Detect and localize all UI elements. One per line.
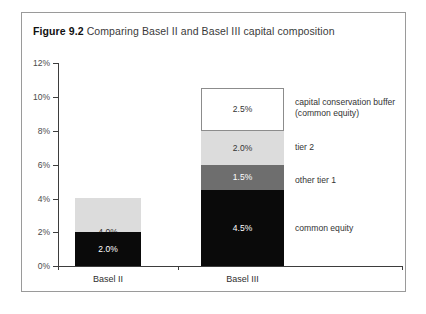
y-label-10: 10%: [24, 93, 50, 102]
annotation-other-tier-1: other tier 1: [295, 175, 336, 186]
y-label-0: 0%: [24, 262, 50, 271]
bar-basel-iii-segment-common-equity[interactable]: 4.5%: [201, 190, 284, 266]
y-tick-2: [53, 232, 58, 233]
y-tick-4: [53, 199, 58, 200]
annotation-common-equity: common equity: [295, 223, 353, 234]
bar-basel-iii-segment-other-tier-1[interactable]: 1.5%: [201, 165, 284, 190]
y-axis-line: [58, 63, 59, 267]
bar-basel-iii-segment-tier-2[interactable]: 2.0%: [201, 131, 284, 165]
bar-basel-iii-segment-capital-conservation-buffer[interactable]: 2.5%: [201, 88, 284, 131]
y-label-6: 6%: [24, 161, 50, 170]
segment-value: 2.5%: [233, 105, 252, 114]
figure-frame: Figure 9.2 Comparing Basel II and Basel …: [21, 12, 406, 292]
segment-value: 1.5%: [233, 173, 252, 182]
category-label-basel-iii: Basel III: [201, 275, 284, 284]
y-label-4: 4%: [24, 195, 50, 204]
annotation-capital-conservation-buffer-line1: capital conservation buffer: [295, 97, 395, 108]
y-tick-8: [53, 131, 58, 132]
chart-plot-area: 12% 10% 8% 6% 4% 2% 0% 4.0% 2.0% 2.0% 2.…: [22, 13, 407, 293]
x-axis-line: [58, 266, 403, 267]
segment-value: 2.0%: [98, 245, 117, 254]
annotation-capital-conservation-buffer-line2: (common equity): [295, 108, 359, 119]
segment-value: 4.5%: [233, 224, 252, 233]
x-tick-start: [58, 266, 59, 270]
x-tick-mid: [178, 266, 179, 270]
y-tick-12: [53, 63, 58, 64]
y-label-12: 12%: [24, 59, 50, 68]
y-label-2: 2%: [24, 228, 50, 237]
y-label-8: 8%: [24, 127, 50, 136]
segment-value: 2.0%: [233, 144, 252, 153]
annotation-tier-2: tier 2: [295, 142, 314, 153]
category-label-basel-ii: Basel II: [75, 275, 141, 284]
y-tick-6: [53, 165, 58, 166]
y-tick-10: [53, 97, 58, 98]
bar-basel-ii-segment-common-equity[interactable]: 2.0%: [75, 232, 141, 266]
x-tick-end: [402, 266, 403, 270]
